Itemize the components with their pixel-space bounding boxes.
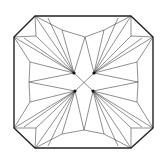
- gem-facet-diagram: [0, 0, 166, 159]
- facet-lines: [14, 16, 153, 148]
